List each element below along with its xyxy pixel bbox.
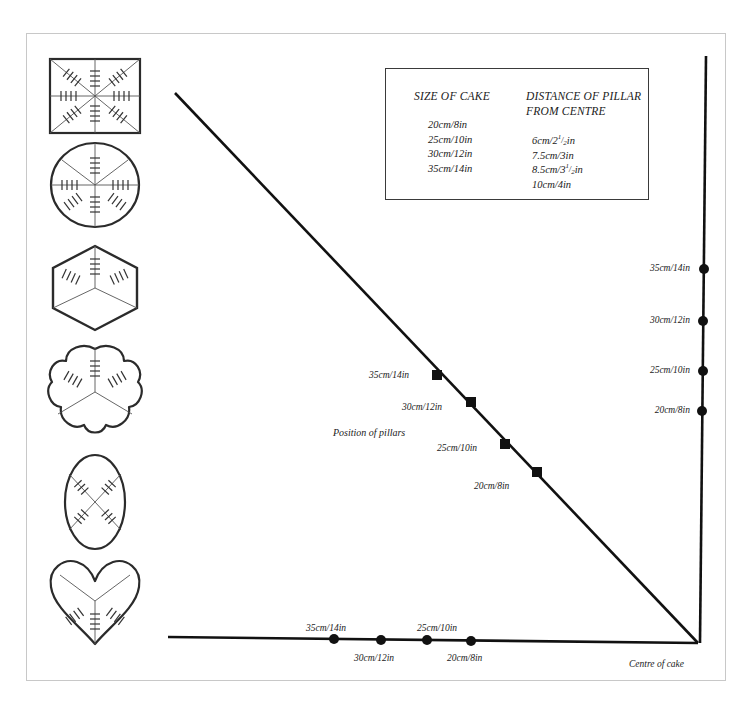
table-heading-size: SIZE OF CAKE [414,89,534,104]
horizontal-label-20cm: 20cm/8in [447,653,482,663]
shape-square-cake [44,55,146,137]
diagonal-label-25cm: 25cm/10in [437,443,477,453]
distance-value: 10cm/4in [532,178,648,193]
distance-value: 7.5cm/3in [532,149,648,164]
table-distance-values: 6cm/21/2in 7.5cm/3in 8.5cm/31/2in 10cm/4… [526,134,648,192]
size-value: 35cm/14in [428,162,534,177]
size-value: 20cm/8in [428,118,534,133]
table-size-values: 20cm/8in 25cm/10in 30cm/12in 35cm/14in [414,118,534,176]
shape-petal-cake [44,344,146,436]
vertical-label-25cm: 25cm/10in [635,365,690,375]
table-column-size: SIZE OF CAKE 20cm/8in 25cm/10in 30cm/12i… [414,89,534,176]
centre-of-cake-label: Centre of cake [629,659,684,669]
diagonal-label-20cm: 20cm/8in [474,481,509,491]
size-value: 25cm/10in [428,133,534,148]
shape-heart-cake [44,556,146,648]
horizontal-label-35cm: 35cm/14in [306,623,346,633]
reference-table: SIZE OF CAKE 20cm/8in 25cm/10in 30cm/12i… [385,68,649,200]
horizontal-label-25cm: 25cm/10in [417,623,457,633]
table-heading-distance-line2: FROM CENTRE [526,104,648,119]
size-value: 30cm/12in [428,147,534,162]
distance-value: 8.5cm/31/2in [532,163,648,178]
distance-value: 6cm/21/2in [532,134,648,149]
shape-oval-cake [44,452,146,552]
vertical-label-20cm: 20cm/8in [635,405,690,415]
diagonal-label-30cm: 30cm/12in [402,402,442,412]
horizontal-label-30cm: 30cm/12in [354,653,394,663]
shape-hexagonal-cake [44,242,146,334]
diagonal-label-35cm: 35cm/14in [369,370,409,380]
vertical-label-35cm: 35cm/14in [635,263,690,273]
table-column-distance: DISTANCE OF PILLAR FROM CENTRE 6cm/21/2i… [526,89,648,192]
table-heading-distance-line1: DISTANCE OF PILLAR [526,89,648,104]
shape-round-cake [44,140,146,230]
diagram-page: SIZE OF CAKE 20cm/8in 25cm/10in 30cm/12i… [0,0,753,712]
position-of-pillars-label: Position of pillars [333,427,405,438]
vertical-label-30cm: 30cm/12in [635,315,690,325]
